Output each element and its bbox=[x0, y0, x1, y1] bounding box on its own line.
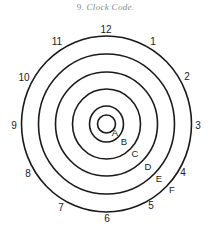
ring-f bbox=[22, 36, 192, 212]
clock-number-9: 9 bbox=[11, 120, 17, 131]
concentric-rings bbox=[22, 36, 192, 212]
ring-e bbox=[39, 54, 175, 194]
clock-number-11: 11 bbox=[52, 36, 63, 47]
clock-code-diagram: ABCDEF 121234567891011 bbox=[0, 0, 211, 235]
clock-number-2: 2 bbox=[184, 71, 190, 82]
clock-number-10: 10 bbox=[18, 72, 30, 83]
ring-label-a: A bbox=[112, 127, 119, 138]
clock-number-4: 4 bbox=[180, 167, 186, 178]
ring-label-f: F bbox=[169, 184, 175, 195]
ring-label-d: D bbox=[145, 161, 152, 172]
clock-number-6: 6 bbox=[104, 213, 110, 224]
clock-number-3: 3 bbox=[195, 120, 201, 131]
ring-label-c: C bbox=[132, 148, 139, 159]
clock-number-12: 12 bbox=[100, 24, 112, 35]
ring-c bbox=[73, 89, 141, 159]
clock-number-5: 5 bbox=[148, 200, 154, 211]
clock-number-8: 8 bbox=[25, 168, 31, 179]
ring-d bbox=[56, 72, 158, 176]
ring-label-b: B bbox=[121, 136, 127, 147]
clock-number-1: 1 bbox=[150, 36, 156, 47]
clock-number-7: 7 bbox=[58, 202, 64, 213]
ring-label-e: E bbox=[156, 173, 162, 184]
ring-b bbox=[90, 106, 124, 142]
